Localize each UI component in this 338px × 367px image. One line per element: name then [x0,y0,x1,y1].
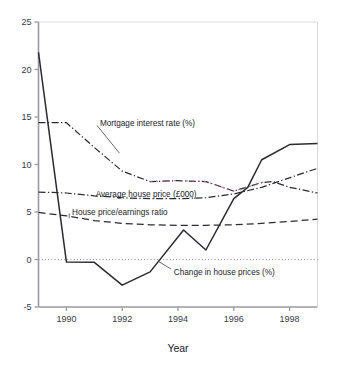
y-tick-label: 25 [21,17,31,27]
chart-background [0,0,338,367]
x-tick-label: 1994 [168,314,188,324]
x-tick-label: 1992 [112,314,132,324]
y-tick-label: 0 [26,255,31,265]
x-tick-label: 1998 [280,314,300,324]
series-label-3: House price/earnings ratio [72,208,168,217]
house-price-chart: -50510152025 19901992199419961998 Change… [0,0,338,367]
y-tick-label: -5 [23,302,31,312]
y-tick-label: 10 [21,160,31,170]
y-tick-label: 5 [26,207,31,217]
y-tick-label: 15 [21,112,31,122]
series-label-2: Average house price (£000) [96,190,197,199]
x-tick-label: 1996 [224,314,244,324]
chart-canvas: -50510152025 19901992199419961998 Change… [0,0,338,367]
x-tick-label: 1990 [56,314,76,324]
series-label-1: Mortgage interest rate (%) [100,119,195,128]
series-label-0: Change in house prices (%) [174,268,275,277]
x-axis-title: Year [167,342,189,354]
y-tick-label: 20 [21,65,31,75]
